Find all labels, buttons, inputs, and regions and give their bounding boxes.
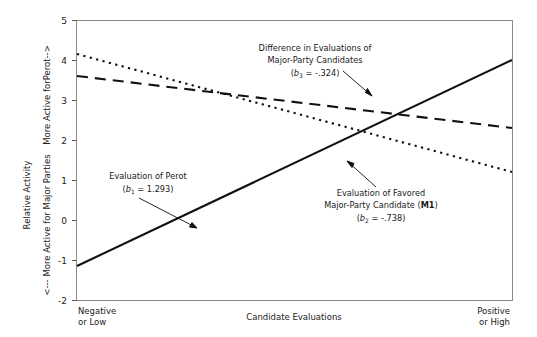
annotation-favored-m1-token: M1: [421, 200, 435, 210]
x-axis-label-left-line1: Negative: [78, 306, 116, 316]
y-axis-title-outer: Relative Activity: [22, 161, 32, 230]
y-tick-label-2: 2: [61, 136, 67, 146]
x-axis-label-left-line2: or Low: [78, 317, 106, 327]
y-tick-label-3: 3: [61, 96, 67, 106]
y-tick-label-4: 4: [61, 56, 67, 66]
annotation-perot-arrowhead: [190, 223, 198, 229]
annotation-perot-line1: Evaluation of Perot: [109, 171, 187, 181]
annotation-favored-line2-post: ): [435, 200, 438, 210]
y-tick-label-0: 0: [61, 216, 67, 226]
x-axis-title: Candidate Evaluations: [246, 312, 342, 322]
y-axis-ticks: [72, 21, 77, 301]
annotation-difference-coef: (b3 = -.324): [291, 68, 340, 79]
y-tick-label-5: 5: [61, 16, 67, 26]
y-axis-title-upper: More Active forPerot-->: [42, 45, 52, 145]
annotation-favored-arrowhead: [347, 161, 354, 168]
line-chart-canvas: 5 4 3 2 1 0 -1 -2 Relative Activity More…: [0, 0, 537, 337]
coef-equals-value: = -.324): [303, 68, 339, 78]
y-tick-label-neg1: -1: [58, 256, 67, 266]
annotation-favored-line2-pre: Major-Party Candidate (: [324, 200, 420, 210]
y-axis-title-lower: <--- More Active for Major Parties: [42, 154, 52, 296]
annotation-difference-line2: Major-Party Candidates: [268, 55, 363, 65]
x-axis-label-right-line1: Positive: [477, 306, 510, 316]
x-axis-label-right-line2: or High: [479, 317, 510, 327]
annotation-favored-major-party: Evaluation of Favored Major-Party Candid…: [324, 161, 438, 224]
annotation-favored-coef: (b2 = -.738): [357, 213, 406, 224]
annotation-difference: Difference in Evaluations of Major-Party…: [259, 43, 373, 96]
annotation-difference-line1: Difference in Evaluations of: [259, 43, 373, 53]
series-line-difference: [77, 76, 512, 128]
series-line-perot: [77, 60, 512, 266]
annotation-favored-line1: Evaluation of Favored: [337, 188, 426, 198]
chart-figure: 5 4 3 2 1 0 -1 -2 Relative Activity More…: [0, 0, 537, 337]
annotation-difference-arrowhead: [366, 89, 373, 97]
coef-equals-value: = -.738): [369, 213, 405, 223]
annotation-perot: Evaluation of Perot (b1 = 1.293): [109, 171, 197, 228]
y-tick-label-1: 1: [61, 176, 67, 186]
annotation-perot-coef: (b1 = 1.293): [123, 184, 174, 195]
y-tick-label-neg2: -2: [58, 296, 67, 306]
coef-equals-value: = 1.293): [135, 184, 174, 194]
annotation-favored-line2: Major-Party Candidate (M1): [324, 200, 438, 210]
